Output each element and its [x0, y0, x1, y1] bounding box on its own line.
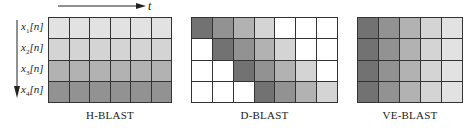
stream-label-2: x2[n] [21, 41, 47, 56]
grid-cell [152, 18, 172, 38]
grid-cell [317, 61, 337, 81]
grid-cell [192, 18, 212, 38]
grid-cell [275, 39, 295, 59]
grid-cell [49, 82, 69, 102]
h-blast-grid [48, 17, 172, 103]
grid-cell [70, 39, 90, 59]
grid-cell [111, 18, 131, 38]
ve-blast-grid [357, 17, 463, 103]
grid-cell [400, 61, 420, 81]
grid-cell [111, 61, 131, 81]
grid-cell [70, 61, 90, 81]
grid-cell [358, 61, 378, 81]
time-arrow-icon [56, 0, 148, 12]
grid-cell [131, 18, 151, 38]
grid-cell [152, 39, 172, 59]
grid-cell [379, 39, 399, 59]
h-blast-caption: H-BLAST [48, 109, 172, 121]
grid-cell [234, 18, 254, 38]
grid-cell [111, 82, 131, 102]
d-blast-grid [191, 17, 338, 103]
grid-cell [111, 39, 131, 59]
stream-label-4: x4[n] [21, 83, 47, 98]
grid-cell [317, 39, 337, 59]
grid-cell [421, 39, 441, 59]
d-blast-caption: D-BLAST [191, 109, 338, 121]
grid-cell [255, 61, 275, 81]
grid-cell [358, 39, 378, 59]
time-axis-label: t [148, 0, 151, 14]
grid-cell [90, 82, 110, 102]
grid-cell [131, 82, 151, 102]
grid-cell [421, 82, 441, 102]
grid-cell [90, 39, 110, 59]
grid-cell [379, 82, 399, 102]
grid-cell [442, 39, 462, 59]
grid-cell [213, 82, 233, 102]
grid-cell [275, 82, 295, 102]
ve-blast-caption: VE-BLAST [357, 109, 463, 121]
grid-cell [70, 82, 90, 102]
grid-cell [275, 18, 295, 38]
grid-cell [152, 61, 172, 81]
grid-cell [296, 82, 316, 102]
grid-cell [213, 18, 233, 38]
grid-cell [213, 61, 233, 81]
grid-cell [296, 18, 316, 38]
grid-cell [152, 82, 172, 102]
grid-cell [192, 39, 212, 59]
grid-cell [275, 61, 295, 81]
grid-cell [131, 61, 151, 81]
grid-cell [255, 18, 275, 38]
grid-cell [317, 82, 337, 102]
grid-cell [192, 61, 212, 81]
grid-cell [358, 18, 378, 38]
grid-cell [379, 61, 399, 81]
stream-label-3: x3[n] [21, 62, 47, 77]
grid-cell [90, 18, 110, 38]
grid-cell [90, 61, 110, 81]
grid-cell [49, 39, 69, 59]
grid-cell [255, 82, 275, 102]
grid-cell [317, 18, 337, 38]
grid-cell [296, 61, 316, 81]
grid-cell [421, 61, 441, 81]
grid-cell [296, 39, 316, 59]
grid-cell [192, 82, 212, 102]
grid-cell [400, 39, 420, 59]
grid-cell [400, 18, 420, 38]
grid-cell [421, 18, 441, 38]
grid-cell [49, 18, 69, 38]
grid-cell [255, 39, 275, 59]
stream-label-1: x1[n] [21, 20, 47, 35]
grid-cell [442, 18, 462, 38]
grid-cell [49, 61, 69, 81]
grid-cell [234, 61, 254, 81]
grid-cell [400, 82, 420, 102]
grid-cell [234, 39, 254, 59]
grid-cell [442, 82, 462, 102]
grid-cell [442, 61, 462, 81]
grid-cell [234, 82, 254, 102]
grid-cell [358, 82, 378, 102]
grid-cell [70, 18, 90, 38]
grid-cell [131, 39, 151, 59]
grid-cell [213, 39, 233, 59]
grid-cell [379, 18, 399, 38]
